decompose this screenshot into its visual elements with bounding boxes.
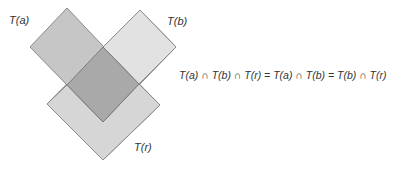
label-t-b: T(b) — [167, 15, 187, 27]
set-diagram — [0, 0, 401, 173]
label-t-a: T(a) — [9, 14, 29, 26]
intersection-formula: T(a) ∩ T(b) ∩ T(r) = T(a) ∩ T(b) = T(b) … — [179, 69, 387, 81]
label-t-r: T(r) — [134, 141, 152, 153]
